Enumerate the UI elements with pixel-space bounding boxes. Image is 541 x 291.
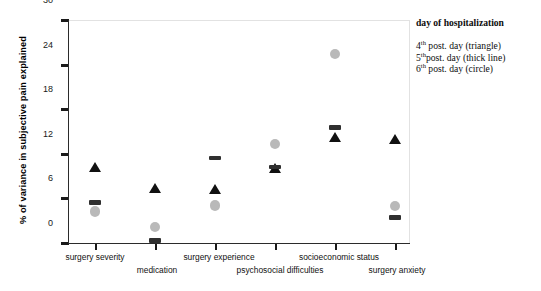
data-point bbox=[329, 125, 341, 130]
data-point bbox=[210, 200, 221, 211]
data-point bbox=[89, 162, 101, 172]
legend-item-text: post. day (triangle) bbox=[426, 40, 501, 51]
legend-title: day of hospitalization bbox=[416, 17, 540, 28]
y-tick-label: 12 bbox=[31, 129, 53, 139]
data-point bbox=[149, 183, 161, 193]
plot-area-border bbox=[68, 20, 410, 243]
x-tick-label-surgery-anxiety: surgery anxiety bbox=[369, 265, 426, 275]
x-tick-label-surgery-experience: surgery experience bbox=[183, 252, 254, 262]
x-axis-tick bbox=[215, 244, 217, 250]
y-axis-line bbox=[68, 20, 69, 244]
y-tick-label: 6 bbox=[31, 173, 53, 183]
figure-container: % of variance in subjective pain explain… bbox=[0, 0, 541, 291]
x-axis-line bbox=[68, 243, 410, 244]
y-tick-label: 30 bbox=[31, 0, 53, 5]
x-tick-label-socioeconomic-status: socioeconomic status bbox=[299, 252, 379, 262]
x-axis-tick bbox=[95, 244, 97, 250]
x-axis-tick bbox=[155, 244, 157, 250]
data-point bbox=[389, 215, 401, 220]
x-axis-tick bbox=[395, 244, 397, 250]
y-tick-label: 18 bbox=[31, 84, 53, 94]
x-tick-label-psychosocial-difficulties: psychosocial difficulties bbox=[237, 265, 324, 275]
data-point bbox=[389, 134, 401, 144]
legend-item-day5: 5thpost. day (thick line) bbox=[416, 52, 540, 64]
legend-item-day4: 4th post. day (triangle) bbox=[416, 40, 540, 52]
y-tick-label: 24 bbox=[31, 40, 53, 50]
legend-item-text: post. day (circle) bbox=[426, 63, 493, 74]
x-axis-tick bbox=[335, 244, 337, 250]
data-point bbox=[209, 156, 221, 161]
legend-item-day6: 6th post. day (circle) bbox=[416, 63, 540, 75]
x-axis-tick bbox=[275, 244, 277, 250]
legend: day of hospitalization 4th post. day (tr… bbox=[416, 17, 540, 75]
x-tick-label-medication: medication bbox=[137, 265, 178, 275]
legend-item-text: post. day (thick line) bbox=[426, 52, 505, 63]
y-tick-label: 0 bbox=[31, 218, 53, 228]
data-point bbox=[90, 206, 101, 217]
y-axis-title: % of variance in subjective pain explain… bbox=[18, 10, 28, 250]
data-point bbox=[149, 238, 161, 243]
data-point bbox=[269, 165, 281, 170]
data-point bbox=[209, 184, 221, 194]
data-point bbox=[329, 132, 341, 142]
x-tick-label-surgery-severity: surgery severity bbox=[65, 252, 124, 262]
data-point bbox=[89, 200, 101, 205]
